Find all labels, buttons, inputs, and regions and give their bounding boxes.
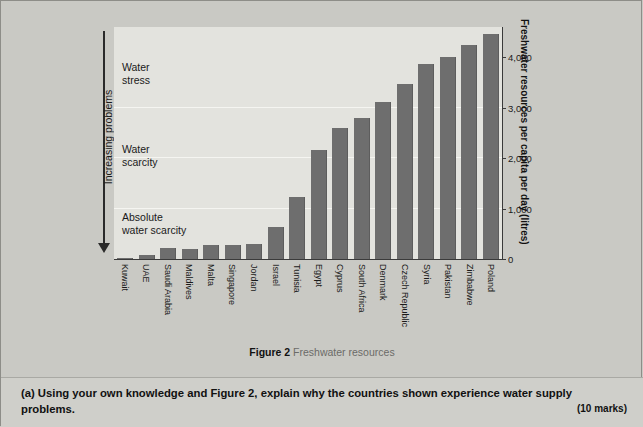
figure-caption: Figure 2 Freshwater resources (1, 346, 643, 358)
bar-south-africa (354, 118, 370, 259)
question-body: Using your own knowledge and Figure 2, e… (21, 387, 572, 415)
zone-label-absolute-water-scarcity: Absolute water scarcity (122, 211, 186, 237)
y-tick (502, 259, 506, 260)
bar-syria (418, 64, 434, 259)
y-axis-title: Freshwater resources per capita per day … (518, 19, 530, 249)
increasing-problems-axis: Increasing problems (97, 31, 111, 255)
x-axis-line (114, 259, 504, 260)
x-label-egypt: Egypt (314, 264, 324, 287)
x-label-poland: Poland (486, 264, 496, 292)
x-label-jordan: Jordan (249, 264, 259, 292)
bar-zimbabwe (461, 45, 477, 259)
figure-caption-number: Figure 2 (249, 346, 290, 358)
plot-area: Water stressWater scarcityAbsolute water… (114, 27, 502, 259)
y-tick-label: 0 (508, 254, 513, 265)
bar-egypt (311, 150, 327, 259)
y-tick (502, 209, 506, 210)
arrow-head-icon (98, 243, 110, 253)
question-label: (a) (21, 387, 35, 399)
bar-poland (483, 34, 499, 259)
bar-israel (268, 227, 284, 259)
bar-tunisia (289, 197, 305, 259)
x-label-kuwait: Kuwait (120, 264, 130, 291)
bar-malta (203, 245, 219, 259)
increasing-problems-label: Increasing problems (102, 42, 114, 232)
zone-label-water-stress: Water stress (122, 61, 150, 87)
bar-jordan (246, 244, 262, 259)
divider (1, 377, 643, 378)
y-tick (502, 57, 506, 58)
x-label-pakistan: Pakistan (443, 264, 453, 299)
figure-panel: Increasing problems Water stressWater sc… (1, 1, 643, 373)
bar-czech-republic (397, 84, 413, 259)
x-label-singapore: Singapore (227, 264, 237, 305)
x-label-israel: Israel (271, 264, 281, 286)
question-text: (a)Using your own knowledge and Figure 2… (21, 385, 581, 417)
bar-cyprus (332, 128, 348, 259)
x-label-czech-republic: Czech Republic (400, 264, 410, 327)
x-label-uae: UAE (141, 264, 151, 283)
x-label-denmark: Denmark (378, 264, 388, 301)
x-label-syria: Syria (422, 264, 432, 285)
marks-badge: (10 marks) (577, 403, 627, 414)
x-label-south-africa: South Africa (357, 264, 367, 313)
x-label-maldives: Maldives (184, 264, 194, 300)
x-label-malta: Malta (206, 264, 216, 286)
bar-singapore (225, 245, 241, 259)
x-label-cyprus: Cyprus (335, 264, 345, 293)
x-label-zimbabwe: Zimbabwe (465, 264, 475, 306)
bar-pakistan (440, 57, 456, 259)
y-tick (502, 158, 506, 159)
bar-saudi-arabia (160, 248, 176, 259)
x-label-saudi-arabia: Saudi Arabia (163, 264, 173, 315)
y-axis-line (502, 27, 503, 260)
figure-caption-text: Freshwater resources (290, 346, 394, 358)
question-block: (a)Using your own knowledge and Figure 2… (1, 377, 643, 427)
bar-denmark (375, 102, 391, 259)
y-tick (502, 108, 506, 109)
x-label-tunisia: Tunisia (292, 264, 302, 293)
bar-maldives (182, 249, 198, 259)
zone-label-water-scarcity: Water scarcity (122, 143, 158, 169)
